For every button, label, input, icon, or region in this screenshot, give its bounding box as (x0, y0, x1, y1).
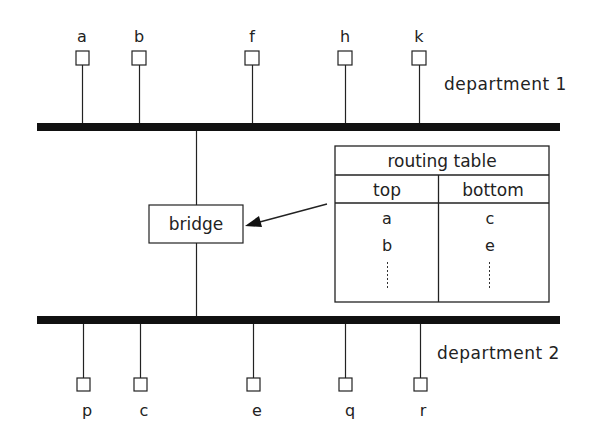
bottom-nodes: p c e q r (77, 324, 427, 420)
node-label: f (249, 27, 255, 46)
node-label: c (140, 401, 149, 420)
top-node-f: f (245, 27, 259, 123)
top-bus (37, 123, 560, 131)
bottom-node-r: r (414, 324, 427, 420)
top-node-a: a (76, 27, 89, 123)
node-label: e (252, 401, 262, 420)
top-node-h: h (338, 27, 352, 123)
node-label: h (340, 27, 350, 46)
table-cell: a (382, 209, 392, 228)
department-2-label: department 2 (437, 343, 560, 363)
node-label: q (345, 401, 355, 420)
node-label: a (77, 27, 87, 46)
bottom-node-e: e (247, 324, 262, 420)
column-header-top: top (373, 180, 401, 200)
node-label: b (134, 27, 144, 46)
table-cell: e (485, 236, 495, 255)
arrow-icon (245, 204, 327, 227)
node-label: r (420, 401, 427, 420)
table-cell: c (486, 209, 495, 228)
column-header-bottom: bottom (462, 180, 523, 200)
node-label: k (414, 27, 424, 46)
routing-table-title: routing table (387, 151, 496, 171)
table-cell: b (382, 236, 392, 255)
top-nodes: a b f h k (76, 27, 426, 123)
top-node-k: k (412, 27, 426, 123)
bottom-bus (37, 316, 560, 324)
bottom-node-p: p (77, 324, 92, 420)
node-label: p (82, 401, 92, 420)
routing-table: routing table top bottom a c b e (335, 146, 549, 302)
department-1-label: department 1 (444, 74, 567, 94)
top-node-b: b (132, 27, 146, 123)
bridge: bridge (149, 205, 243, 243)
bottom-node-q: q (339, 324, 355, 420)
network-bridge-diagram: a b f h k department 1 bridge (0, 0, 611, 447)
bottom-node-c: c (134, 324, 148, 420)
bridge-label: bridge (169, 214, 224, 234)
